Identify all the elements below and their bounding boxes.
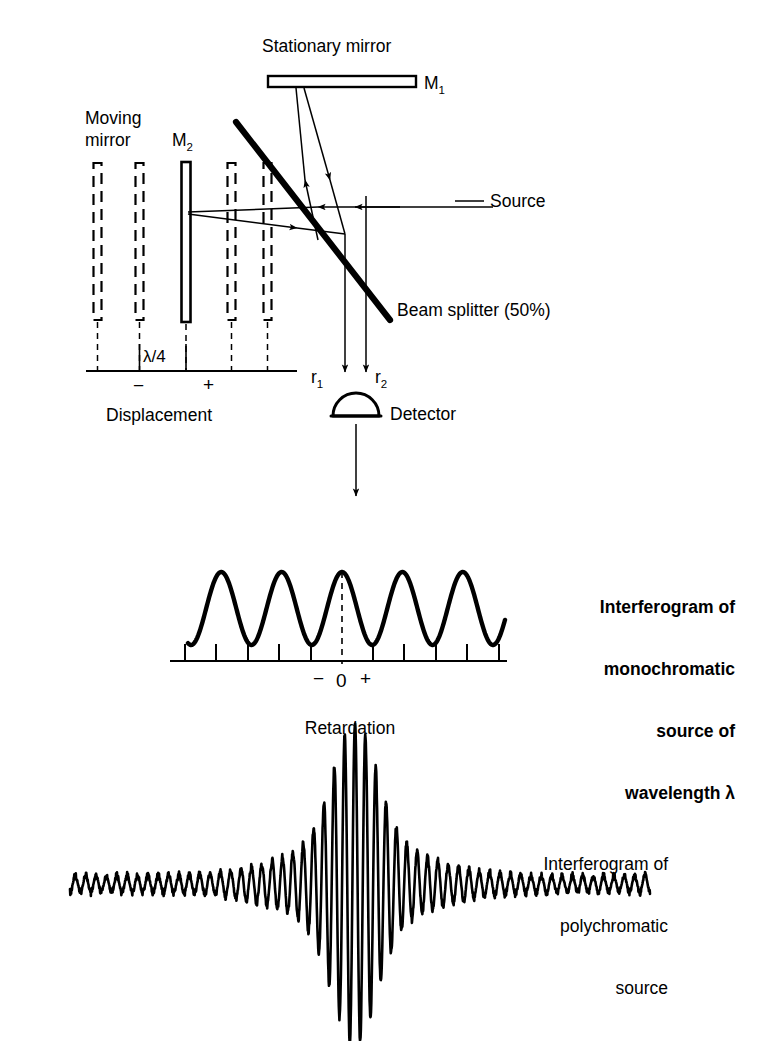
mono-axis-zero-label: 0 <box>336 670 347 692</box>
ray-paths <box>188 88 493 496</box>
mirror-position-dashed-2 <box>136 163 144 320</box>
figure-root: Stationary mirror M1 Moving mirror M2 So… <box>0 0 760 1041</box>
ray-r1-subscript: 1 <box>317 378 323 390</box>
mirror-position-dashed-3 <box>228 163 236 320</box>
polychromatic-caption: Interferogram of polychromatic source <box>448 813 668 1040</box>
mirror-M1-subscript: 1 <box>439 84 445 96</box>
ray-r2-subscript: 2 <box>381 378 387 390</box>
mirror-position-dashed-4 <box>264 163 272 320</box>
mirror-M2-label: M2 <box>172 130 193 154</box>
mirror-M1-letter: M <box>424 73 439 93</box>
mono-axis-minus-sign: − <box>313 668 324 690</box>
detector-icon <box>333 393 379 416</box>
polychromatic-caption-line-3: source <box>448 978 668 999</box>
mirror-M2-subscript: 2 <box>187 141 193 153</box>
beam-splitter-label: Beam splitter (50%) <box>397 300 551 321</box>
moving-mirror-positions <box>94 162 272 322</box>
monochromatic-interferogram-chart <box>170 572 507 664</box>
ray-up-to-M1 <box>296 88 305 180</box>
mirror-position-dashed-1 <box>94 163 102 320</box>
mirror-M2-letter: M <box>172 130 187 150</box>
displacement-minus-sign: − <box>133 375 144 397</box>
monochromatic-caption-line-1: Interferogram of <box>511 597 735 618</box>
displacement-plus-sign: + <box>203 374 214 396</box>
interferometer-diagram <box>86 76 493 496</box>
ray-r2-label: r2 <box>375 367 387 391</box>
source-label: Source <box>490 191 545 212</box>
mirror-M1-label: M1 <box>424 73 445 97</box>
monochromatic-caption-line-4: wavelength λ <box>511 783 735 804</box>
lambda-quarter-label: λ/4 <box>143 347 166 367</box>
mono-axis-plus-sign: + <box>360 668 371 690</box>
moving-mirror-label-line1: Moving <box>85 108 141 129</box>
monochromatic-caption-line-2: monochromatic <box>511 659 735 680</box>
monochromatic-caption-line-3: source of <box>511 721 735 742</box>
polychromatic-caption-line-2: polychromatic <box>448 916 668 937</box>
detector-label: Detector <box>390 404 456 425</box>
monochromatic-caption: Interferogram of monochromatic source of… <box>511 556 735 845</box>
beam-splitter <box>236 122 390 320</box>
displacement-droplines <box>98 322 268 370</box>
retardation-label: Retardation <box>255 718 445 739</box>
polychromatic-caption-line-1: Interferogram of <box>448 854 668 875</box>
ray-r1-label: r1 <box>311 367 323 391</box>
ray-from-M2 <box>188 214 297 228</box>
ray-down-from-M1-arrow <box>304 88 330 180</box>
displacement-axis-label: Displacement <box>106 405 212 426</box>
stationary-mirror-M1 <box>268 76 416 87</box>
monochromatic-wave-curve <box>188 572 505 645</box>
ray-to-M2 <box>188 207 318 212</box>
stationary-mirror-label: Stationary mirror <box>262 36 391 57</box>
moving-mirror-M2 <box>182 162 191 322</box>
moving-mirror-label-line2: mirror <box>85 130 131 151</box>
